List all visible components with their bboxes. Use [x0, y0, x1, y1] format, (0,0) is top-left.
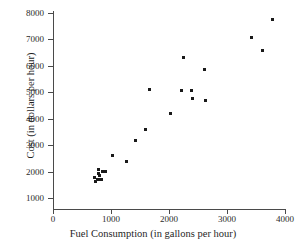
data-point — [144, 128, 147, 131]
y-tick-label: 3000 — [2, 140, 44, 150]
y-tick-mark — [48, 119, 53, 120]
x-axis-title: Fuel Consumption (in gallons per hour) — [0, 228, 306, 239]
y-tick-mark — [48, 66, 53, 67]
data-point — [250, 36, 253, 39]
data-point — [191, 97, 194, 100]
y-axis-title: Cost (in dollars per hour) — [25, 16, 36, 196]
x-tick-label: 1000 — [91, 214, 131, 224]
y-tick-mark — [48, 13, 53, 14]
data-point — [203, 68, 206, 71]
scatter-plot-figure: 10002000300040005000600070008000 0100020… — [0, 0, 306, 248]
x-tick-label: 3000 — [207, 214, 247, 224]
y-tick-mark — [48, 92, 53, 93]
x-tick-label: 2000 — [149, 214, 189, 224]
y-tick-label: 6000 — [2, 61, 44, 71]
y-tick-mark — [48, 172, 53, 173]
data-point — [204, 99, 207, 102]
data-point — [182, 56, 185, 59]
y-tick-mark — [48, 145, 53, 146]
y-tick-label: 2000 — [2, 167, 44, 177]
x-tick-label: 0 — [33, 214, 73, 224]
data-point — [98, 174, 101, 177]
data-point — [148, 88, 151, 91]
y-tick-label: 1000 — [2, 193, 44, 203]
y-tick-label: 7000 — [2, 34, 44, 44]
data-point — [169, 112, 172, 115]
x-tick-label: 4000 — [265, 214, 305, 224]
data-point — [100, 178, 103, 181]
data-point — [111, 154, 114, 157]
data-point — [134, 139, 137, 142]
y-tick-label: 8000 — [2, 8, 44, 18]
data-point — [180, 89, 183, 92]
data-point — [125, 160, 128, 163]
y-tick-mark — [48, 39, 53, 40]
y-tick-mark — [48, 198, 53, 199]
data-point — [271, 18, 274, 21]
data-point — [261, 49, 264, 52]
data-point — [104, 170, 107, 173]
y-tick-label: 4000 — [2, 114, 44, 124]
y-tick-label: 5000 — [2, 87, 44, 97]
y-axis-line — [53, 11, 54, 210]
plot-area: 10002000300040005000600070008000 0100020… — [0, 0, 306, 248]
data-point — [190, 89, 193, 92]
